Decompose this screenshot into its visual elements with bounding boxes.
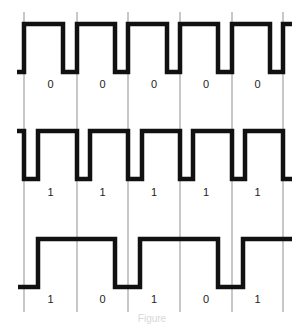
bit-label: 0 (203, 293, 209, 305)
bit-label: 0 (99, 293, 105, 305)
waveform-all-zeros (17, 24, 292, 72)
bit-label: 0 (254, 78, 260, 90)
manchester-encoding-diagram: 000001111110101 Figure (0, 0, 305, 325)
bit-label: 1 (151, 186, 157, 198)
bit-label: 1 (254, 293, 260, 305)
bit-label: 1 (203, 186, 209, 198)
bit-labels: 000001111110101 (47, 78, 260, 305)
bit-label: 0 (203, 78, 209, 90)
bit-label: 1 (47, 293, 53, 305)
waveform-all-ones (17, 131, 292, 179)
bit-label: 0 (151, 78, 157, 90)
bit-label: 1 (99, 186, 105, 198)
figure-caption: Figure (138, 313, 167, 324)
bit-label: 0 (99, 78, 105, 90)
bit-label: 0 (47, 78, 53, 90)
waveform-alternating (18, 239, 292, 287)
bit-label: 1 (47, 186, 53, 198)
bit-label: 1 (151, 293, 157, 305)
waveforms (17, 24, 292, 287)
bit-label: 1 (254, 186, 260, 198)
